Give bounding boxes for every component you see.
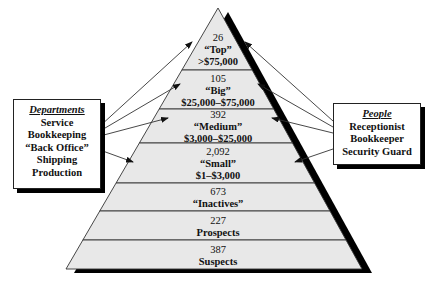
tier-name: “Big” <box>205 85 231 96</box>
pointer-arrow <box>100 150 133 162</box>
departments-box: Departments Service Bookkeeping “Back Of… <box>13 99 101 189</box>
tier-name: “Small” <box>200 158 236 169</box>
tier-name: “Top” <box>204 44 232 55</box>
people-heading: People <box>334 108 420 121</box>
department-item: Production <box>14 167 100 180</box>
department-item: Shipping <box>14 154 100 167</box>
tier-count: 387 <box>210 244 226 255</box>
department-item: “Back Office” <box>14 142 100 155</box>
tier-range: $25,000–$75,000 <box>181 97 255 108</box>
people-box: People Receptionist Bookkeeper Security … <box>333 103 421 165</box>
tier-count: 392 <box>210 109 226 120</box>
people-item: Security Guard <box>334 146 420 159</box>
tier-count: 2,092 <box>206 146 230 157</box>
tier-name: Suspects <box>199 256 238 267</box>
tier-count: 227 <box>210 215 226 226</box>
tier-name: Prospects <box>197 227 240 238</box>
tier-range: >$75,000 <box>198 56 238 67</box>
tier-range: $3,000–$25,000 <box>184 133 252 144</box>
people-item: Bookkeeper <box>334 133 420 146</box>
tier-count: 26 <box>213 32 224 43</box>
department-item: Bookkeeping <box>14 129 100 142</box>
people-item: Receptionist <box>334 121 420 134</box>
tier-count: 673 <box>210 186 226 197</box>
tier-name: “Medium” <box>194 121 242 132</box>
tier-count: 105 <box>210 73 226 84</box>
tier-name: “Inactives” <box>193 198 244 209</box>
departments-heading: Departments <box>14 104 100 117</box>
department-item: Service <box>14 117 100 130</box>
tier-range: $1–$3,000 <box>196 170 241 181</box>
